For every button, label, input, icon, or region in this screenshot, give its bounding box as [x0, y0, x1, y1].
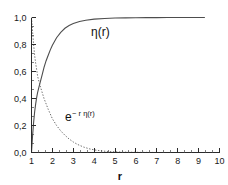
y-tick-label: 0,6 [14, 67, 27, 77]
x-tick-label: 6 [133, 156, 138, 166]
y-tick-label: 0,4 [14, 94, 27, 104]
chart-plot: 12345678910 0,00,20,40,60,81,0 η(r)e− r … [0, 0, 228, 185]
eta-curve-label: η(r) [91, 25, 110, 39]
y-tick-label: 0,8 [14, 40, 27, 50]
y-tick-label: 0,0 [14, 148, 27, 158]
y-tick-label: 1,0 [14, 13, 27, 23]
x-tick-label: 7 [154, 156, 159, 166]
x-tick-label: 1 [29, 156, 34, 166]
x-tick-label: 4 [92, 156, 97, 166]
x-tick-label: 9 [196, 156, 201, 166]
x-axis-title: r [118, 170, 123, 182]
chart-container: 12345678910 0,00,20,40,60,81,0 η(r)e− r … [0, 0, 228, 185]
x-tick-label: 10 [214, 156, 224, 166]
x-tick-label: 8 [175, 156, 180, 166]
x-tick-label: 5 [113, 156, 118, 166]
y-tick-label: 0,2 [14, 121, 27, 131]
x-tick-label: 2 [50, 156, 55, 166]
x-tick-label: 3 [71, 156, 76, 166]
